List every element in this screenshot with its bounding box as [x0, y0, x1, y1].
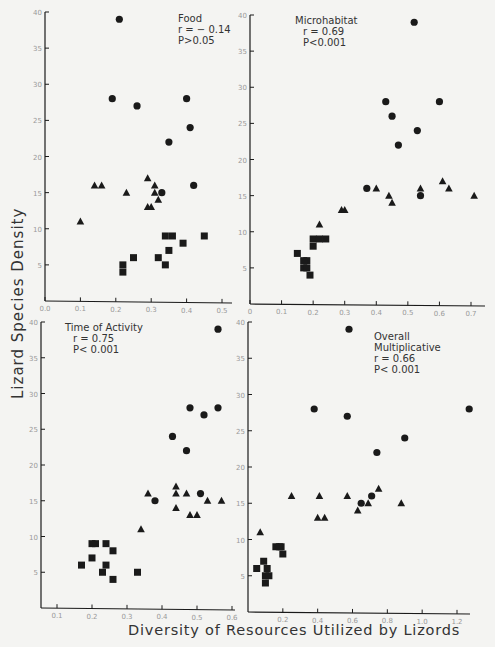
circle-marker — [200, 411, 207, 418]
triangle-marker — [470, 192, 478, 199]
circle-marker — [344, 413, 351, 420]
triangle-marker — [172, 490, 180, 497]
triangle-marker — [77, 218, 85, 225]
y-tick-label: 15 — [236, 500, 245, 508]
panel-annotation: r = 0.75 — [73, 333, 114, 344]
y-tick-label: 10 — [33, 226, 42, 234]
x-tick-label: 0.6 — [226, 614, 238, 622]
triangle-marker — [388, 199, 396, 206]
triangle-marker — [364, 499, 372, 506]
circle-marker — [466, 405, 473, 412]
x-tick-label: 0.1 — [276, 308, 287, 316]
circle-marker — [414, 127, 421, 134]
triangle-marker — [193, 511, 201, 518]
triangle-marker — [256, 528, 264, 535]
circle-marker — [395, 141, 402, 148]
circle-marker — [214, 404, 221, 411]
square-marker — [110, 547, 117, 554]
square-marker — [130, 254, 137, 261]
x-axis — [45, 301, 232, 303]
x-tick-label: 0.3 — [121, 613, 132, 621]
y-axis-label: Lizard Species Density — [9, 239, 27, 399]
circle-marker — [186, 404, 193, 411]
panel-microhabitat: 51015202530354000.10.20.30.40.50.60.7Mic… — [238, 12, 485, 318]
y-tick-label: 25 — [33, 117, 42, 125]
square-marker — [201, 232, 208, 239]
square-marker — [165, 247, 172, 254]
square-marker — [99, 569, 106, 576]
x-tick-label: 0.6 — [434, 310, 446, 318]
square-marker — [78, 562, 85, 569]
triangle-marker — [316, 221, 324, 228]
circle-marker — [214, 326, 221, 333]
panel-annotation: P>0.05 — [178, 35, 215, 46]
triangle-marker — [144, 174, 152, 181]
triangle-marker — [98, 181, 106, 188]
square-marker — [253, 565, 260, 572]
triangle-marker — [314, 514, 322, 521]
panel-annotation: P<0.001 — [303, 37, 346, 48]
triangle-marker — [172, 482, 180, 489]
square-marker — [279, 551, 286, 558]
circle-marker — [116, 16, 123, 23]
x-tick-label: 0.4 — [181, 307, 193, 315]
circle-marker — [169, 433, 176, 440]
square-marker — [119, 261, 126, 268]
square-marker — [306, 272, 313, 279]
triangle-marker — [151, 189, 159, 196]
y-tick-label: 25 — [238, 120, 247, 128]
panel-annotation: r = − 0.14 — [178, 24, 231, 35]
square-marker — [310, 243, 317, 250]
y-tick-label: 40 — [238, 12, 247, 20]
panel-annotation: r = 0.66 — [374, 353, 415, 364]
square-marker — [169, 232, 176, 239]
circle-marker — [358, 500, 365, 507]
y-tick-label: 35 — [236, 355, 245, 363]
y-tick-label: 30 — [236, 392, 245, 400]
circle-marker — [187, 124, 194, 131]
triangle-marker — [372, 184, 380, 191]
x-tick-label: 0.5 — [191, 614, 202, 622]
square-marker — [303, 264, 310, 271]
x-tick-label: 0 — [248, 308, 252, 316]
square-marker — [322, 235, 329, 242]
y-tick-label: 10 — [236, 537, 245, 545]
y-tick-label: 35 — [33, 45, 42, 53]
x-tick-label: 0.2 — [110, 306, 121, 314]
circle-marker — [388, 113, 395, 120]
circle-marker — [183, 447, 190, 454]
panel-annotation: Overall — [374, 331, 410, 342]
circle-marker — [311, 405, 318, 412]
circle-marker — [417, 192, 424, 199]
circle-marker — [183, 95, 190, 102]
circle-marker — [368, 492, 375, 499]
triangle-marker — [354, 507, 362, 514]
triangle-marker — [417, 184, 425, 191]
triangle-marker — [151, 181, 159, 188]
square-marker — [110, 576, 117, 583]
y-tick-label: 20 — [29, 462, 38, 470]
y-tick-label: 5 — [243, 265, 247, 273]
y-tick-label: 35 — [29, 355, 38, 363]
panel-annotation: P< 0.001 — [73, 344, 119, 355]
x-tick-label: 0.1 — [75, 305, 86, 313]
square-marker — [310, 235, 317, 242]
x-tick-label: 0.3 — [146, 306, 157, 314]
triangle-marker — [154, 196, 162, 203]
triangle-marker — [204, 497, 212, 504]
y-tick-label: 40 — [236, 319, 245, 327]
circle-marker — [436, 98, 443, 105]
circle-marker — [401, 434, 408, 441]
panel-annotation: P< 0.001 — [374, 364, 420, 375]
triangle-marker — [218, 497, 226, 504]
circle-marker — [158, 189, 165, 196]
panel-annotation: Time of Activity — [64, 322, 143, 333]
circle-marker — [165, 138, 172, 145]
x-axis — [250, 304, 485, 306]
square-marker — [134, 569, 141, 576]
x-axis-label: Diversity of Resources Utilized by Lizor… — [128, 622, 460, 638]
square-marker — [264, 565, 271, 572]
circle-marker — [345, 326, 352, 333]
circle-marker — [109, 95, 116, 102]
y-tick-label: 40 — [33, 9, 42, 17]
